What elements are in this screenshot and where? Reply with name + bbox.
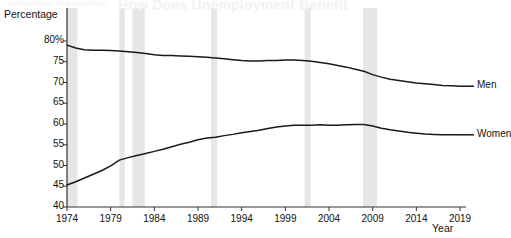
x-axis-tick-label: 1994 [222,213,262,224]
x-axis-tick-label: 1999 [265,213,305,224]
x-axis-tick-label: 1974 [47,213,87,224]
x-axis-tick-label: 1984 [134,213,174,224]
x-axis-tick-label: 2009 [353,213,393,224]
x-axis-tick-label: 2019 [440,213,480,224]
series-label-men: Men [477,79,496,90]
x-axis-tick-label: 1979 [91,213,131,224]
x-axis-tick-label: 2004 [309,213,349,224]
x-axis-tick-label: 1989 [178,213,218,224]
series-label-women: Women [477,128,511,139]
x-axis-tick-label: 2014 [396,213,436,224]
